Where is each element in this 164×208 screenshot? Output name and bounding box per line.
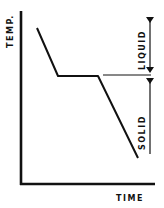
solid-label: SOLID (138, 115, 147, 150)
cooling-curve-diagram: TEMP. TIME LIQUID SOLID (0, 0, 164, 208)
liquid-label: LIQUID (138, 30, 147, 70)
y-axis-label: TEMP. (6, 14, 15, 48)
cooling-curve (37, 28, 138, 158)
x-axis-label: TIME (116, 194, 144, 203)
